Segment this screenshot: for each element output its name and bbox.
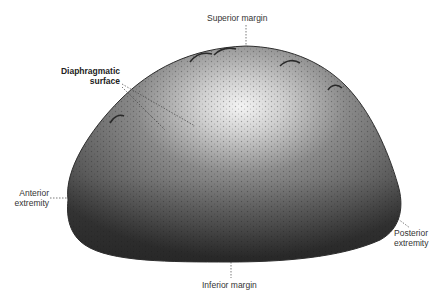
label-diaphragmatic-surface: Diaphragmatic surface — [50, 66, 120, 86]
label-anterior-line1: Anterior — [4, 188, 49, 198]
label-diaphragmatic-line2: surface — [50, 76, 120, 86]
label-anterior-extremity: Anterior extremity — [4, 188, 49, 208]
label-diaphragmatic-line1: Diaphragmatic — [50, 66, 120, 76]
label-posterior-line2: extremity — [394, 238, 428, 248]
label-inferior-margin: Inferior margin — [202, 280, 257, 290]
spleen-illustration — [0, 0, 439, 290]
label-superior-margin: Superior margin — [207, 13, 267, 23]
label-anterior-line2: extremity — [4, 198, 49, 208]
label-posterior-extremity: Posterior extremity — [394, 228, 428, 248]
leader-posterior-extremity — [398, 219, 410, 228]
label-posterior-line1: Posterior — [394, 228, 428, 238]
